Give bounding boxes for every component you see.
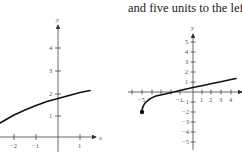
left-y-tick-3: 3 — [49, 67, 52, 74]
left-x-tick-neg2: −2 — [10, 142, 17, 149]
left-y-tick-2: 2 — [49, 90, 52, 97]
left-graph: y x 1 2 3 4 −2 −1 1 — [0, 0, 242, 152]
left-y-tick-1: 1 — [49, 112, 52, 119]
left-x-tick-1: 1 — [78, 142, 81, 149]
left-curve — [0, 91, 90, 124]
left-y-tick-4: 4 — [49, 44, 53, 51]
left-x-axis-label: x — [98, 134, 103, 142]
left-x-tick-neg1: −1 — [32, 142, 39, 149]
left-y-axis-label: y — [55, 16, 60, 24]
